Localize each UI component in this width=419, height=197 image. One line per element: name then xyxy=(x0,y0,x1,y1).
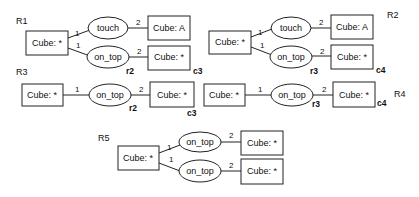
rule-label-r3: R3 xyxy=(16,67,28,77)
tag-c4: c4 xyxy=(377,98,387,108)
rule-r2: R2 Cube: * touch on_top Cube: A Cube: * … xyxy=(209,10,399,76)
edge-label-3: 1 xyxy=(169,155,174,164)
cube-node-root-label: Cube: * xyxy=(209,90,240,100)
tag-r2: r2 xyxy=(129,103,137,113)
edge-label-1: 1 xyxy=(258,85,263,94)
tag-c3: c3 xyxy=(193,66,203,76)
cube-node-target-label: Cube: * xyxy=(157,90,188,100)
cube-node-root-label: Cube: * xyxy=(123,153,154,163)
relation-on-top-upper-label: on_top xyxy=(186,137,214,147)
relation-on-top-label: on_top xyxy=(94,52,122,62)
cube-node-target-label: Cube: * xyxy=(154,52,185,62)
cube-node-target-upper-label: Cube: * xyxy=(247,138,278,148)
cube-node-root-label: Cube: * xyxy=(32,38,63,48)
tag-r2: r2 xyxy=(126,66,134,76)
cube-node-target-label: Cube: * xyxy=(339,90,370,100)
relation-touch-label: touch xyxy=(280,23,302,33)
cube-node-root-label: Cube: * xyxy=(27,90,58,100)
edge-label-2: 2 xyxy=(136,18,141,27)
rule-r4: R4 Cube: * on_top Cube: * 1 2 r3 c4 xyxy=(204,82,406,109)
rule-graphs-diagram: R1 Cube: * touch on_top Cube: A Cube: * … xyxy=(0,0,419,197)
cube-node-a-label: Cube: A xyxy=(336,22,368,32)
relation-on-top-label: on_top xyxy=(278,90,306,100)
relation-on-top-lower-label: on_top xyxy=(186,166,214,176)
cube-node-target-label: Cube: * xyxy=(337,52,368,62)
relation-touch-label: touch xyxy=(97,23,119,33)
rule-r3: R3 Cube: * on_top Cube: * 1 2 r2 c3 xyxy=(16,67,197,118)
edge-label-1: 1 xyxy=(167,143,172,152)
tag-c4: c4 xyxy=(376,65,386,75)
cube-node-root-label: Cube: * xyxy=(215,37,246,47)
edge-label-4: 2 xyxy=(320,47,325,56)
rule-label-r2: R2 xyxy=(387,10,399,20)
edge-root-on-top-lower xyxy=(159,163,180,171)
relation-on-top-label: on_top xyxy=(277,52,305,62)
edge-label-1: 1 xyxy=(258,28,263,37)
rule-r1: R1 Cube: * touch on_top Cube: A Cube: * … xyxy=(16,16,203,76)
tag-r3: r3 xyxy=(312,99,320,109)
edge-label-1: 1 xyxy=(75,29,80,38)
tag-r3: r3 xyxy=(310,66,318,76)
rule-label-r5: R5 xyxy=(98,133,110,143)
edge-label-2: 2 xyxy=(322,85,327,94)
cube-node-target-lower-label: Cube: * xyxy=(247,166,278,176)
edge-label-4: 2 xyxy=(229,161,234,170)
edge-label-3: 1 xyxy=(76,41,81,50)
edge-label-4: 2 xyxy=(137,47,142,56)
cube-node-a-label: Cube: A xyxy=(153,23,185,33)
rule-r5: R5 Cube: * on_top on_top Cube: * Cube: *… xyxy=(98,131,283,184)
rule-label-r4: R4 xyxy=(394,89,406,99)
rule-label-r1: R1 xyxy=(16,16,28,26)
edge-label-2: 2 xyxy=(229,131,234,140)
edge-label-2: 2 xyxy=(319,18,324,27)
edge-label-2: 2 xyxy=(139,85,144,94)
tag-c3: c3 xyxy=(187,108,197,118)
edge-label-3: 1 xyxy=(260,41,265,50)
edge-label-1: 1 xyxy=(75,85,80,94)
relation-on-top-label: on_top xyxy=(96,90,124,100)
